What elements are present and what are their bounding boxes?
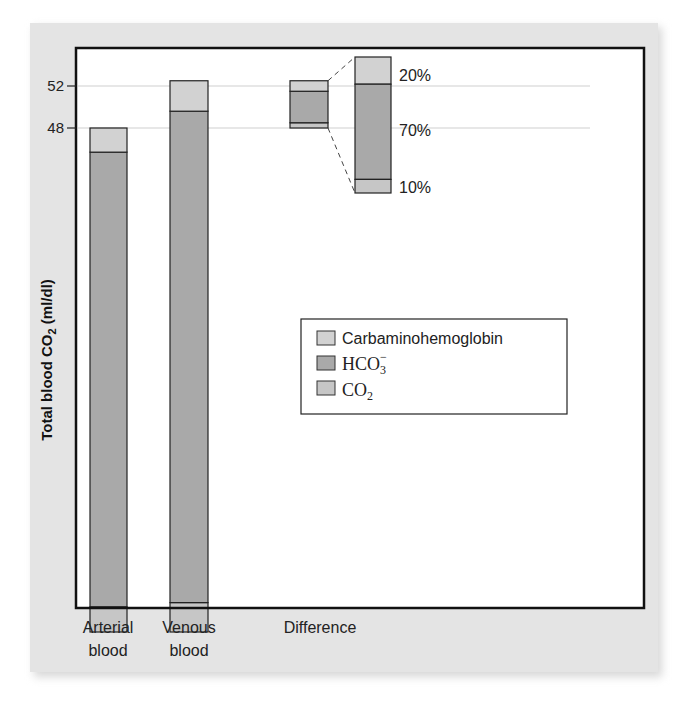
bar-group-venous-blood [170, 81, 208, 632]
bar-group-arterial-blood [90, 128, 127, 632]
legend-label-carbaminohemoglobin: Carbaminohemoglobin [342, 330, 503, 347]
legend-label-hco3-sub: 3 [380, 363, 386, 377]
x-category-label: Difference [284, 619, 357, 636]
legend-swatch-hco3 [317, 356, 335, 370]
percent-label-0: 20% [399, 67, 431, 84]
percent-label-1: 70% [399, 122, 431, 139]
bar-segment-hco3 [170, 111, 208, 602]
y-axis-label: Total blood CO2 (ml/dl) [38, 279, 58, 441]
legend-label-hco3-sup: − [380, 350, 387, 364]
x-category-label: Arterial [83, 619, 134, 636]
x-category-label: blood [88, 642, 127, 659]
y-axis-label-unit: (ml/dl) [38, 279, 55, 328]
legend-label-co2-main: CO [342, 380, 367, 400]
legend-label-hco3: HCO3− [342, 350, 387, 377]
bar-segment-carb [90, 128, 127, 152]
zoom-segment-1 [355, 84, 391, 179]
zoom-segment-0 [355, 57, 391, 84]
legend-label-co2-sub: 2 [367, 389, 373, 403]
bar-segment-carb [170, 81, 208, 111]
x-category-labels: ArterialbloodVenousbloodDifference [83, 619, 357, 659]
legend-swatch-carbaminohemoglobin [317, 331, 335, 345]
stacked-bar-chart: 20%70%10% 4852 ArterialbloodVenousbloodD… [0, 0, 695, 707]
legend-swatch-co2 [317, 381, 335, 395]
y-axis-label-main: Total blood CO [38, 334, 55, 441]
x-category-label: blood [169, 642, 208, 659]
y-tick-label-48: 48 [47, 119, 64, 136]
y-ticks: 4852 [47, 77, 76, 136]
percent-label-2: 10% [399, 179, 431, 196]
bar-segment-carb [290, 81, 328, 92]
bar-segment-hco3 [290, 91, 328, 123]
legend-label-hco3-main: HCO [342, 354, 380, 374]
bar-group-difference [290, 81, 328, 128]
bar-segment-hco3 [90, 152, 127, 607]
legend: Carbaminohemoglobin HCO3− CO2 [301, 319, 567, 414]
y-tick-label-52: 52 [47, 77, 64, 94]
x-category-label: Venous [162, 619, 215, 636]
zoom-segment-2 [355, 179, 391, 193]
bar-segment-co2 [290, 123, 328, 128]
